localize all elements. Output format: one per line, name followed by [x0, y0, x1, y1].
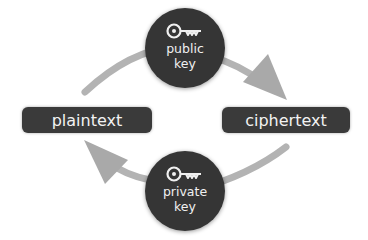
- private-key-label-line2: key: [174, 199, 196, 214]
- public-key-label-line2: key: [174, 56, 196, 71]
- public-key-label-line1: public: [166, 41, 204, 56]
- arrow-head-right: [243, 54, 287, 100]
- plaintext-box: plaintext: [22, 107, 152, 133]
- ciphertext-label: ciphertext: [245, 111, 327, 130]
- private-key-node: private key: [145, 151, 225, 231]
- encryption-cycle-diagram: plaintext ciphertext public key private …: [0, 0, 368, 240]
- private-key-label-line1: private: [163, 184, 207, 199]
- key-icon: [165, 21, 205, 41]
- ciphertext-box: ciphertext: [222, 107, 350, 133]
- plaintext-label: plaintext: [52, 111, 123, 130]
- public-key-node: public key: [145, 8, 225, 88]
- key-icon: [165, 164, 205, 184]
- arrow-head-left: [84, 140, 128, 184]
